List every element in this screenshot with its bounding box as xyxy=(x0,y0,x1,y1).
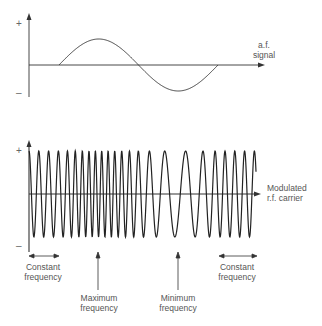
annotation-line1: Minimum xyxy=(153,293,203,303)
af-plus-sign: + xyxy=(16,18,22,29)
rf-minus-sign: – xyxy=(16,240,22,251)
constant-frequency-right-label: Constant frequency xyxy=(212,262,262,282)
maximum-frequency-up-arrow-icon xyxy=(96,252,100,290)
af-label-line2: signal xyxy=(244,50,284,60)
af-minus-sign: – xyxy=(16,87,22,98)
rf-y-arrow-icon xyxy=(27,140,32,147)
af-x-arrow-icon xyxy=(258,63,265,68)
rf-carrier-label: Modulated r.f. carrier xyxy=(267,183,322,203)
annotation-line2: frequency xyxy=(18,272,68,282)
annotation-line2: frequency xyxy=(212,272,262,282)
annotation-line1: Constant xyxy=(18,262,68,272)
annotation-line1: Constant xyxy=(212,262,262,272)
af-label-line1: a.f. xyxy=(244,40,284,50)
af-signal-label: a.f. signal xyxy=(244,40,284,60)
rf-label-line1: Modulated xyxy=(267,183,322,193)
af-axes xyxy=(29,17,260,97)
annotation-line2: frequency xyxy=(74,303,124,313)
annotation-line1: Maximum xyxy=(74,293,124,303)
af-y-arrow-icon xyxy=(27,13,32,20)
minimum-frequency-up-arrow-icon xyxy=(176,252,180,290)
constant-frequency-right-double-arrow-icon xyxy=(219,254,257,258)
minimum-frequency-label: Minimum frequency xyxy=(153,293,203,313)
annotation-line2: frequency xyxy=(153,303,203,313)
constant-frequency-left-label: Constant frequency xyxy=(18,262,68,282)
maximum-frequency-label: Maximum frequency xyxy=(74,293,124,313)
rf-x-arrow-icon xyxy=(254,192,261,197)
rf-plus-sign: + xyxy=(16,145,22,156)
rf-label-line2: r.f. carrier xyxy=(267,193,322,203)
constant-frequency-left-double-arrow-icon xyxy=(29,254,59,258)
